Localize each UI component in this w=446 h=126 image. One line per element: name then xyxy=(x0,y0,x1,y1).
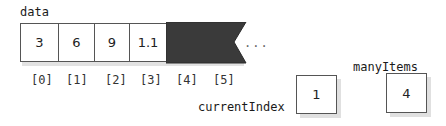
continuation-ellipsis: ... xyxy=(244,36,269,50)
array-cell-1: 6 xyxy=(58,23,95,62)
current-index-label: currentIndex xyxy=(198,100,285,114)
array-cell-2: 9 xyxy=(94,23,130,62)
array-name-label: data xyxy=(20,5,49,19)
index-label-5: [5] xyxy=(213,73,235,87)
index-label-2: [2] xyxy=(105,73,127,87)
index-label-4: [4] xyxy=(176,73,198,87)
index-label-3: [3] xyxy=(140,73,162,87)
many-items-label: manyItems xyxy=(353,60,418,74)
many-items-box: 4 xyxy=(386,73,427,113)
index-label-1: [1] xyxy=(66,73,88,87)
array-cell-0: 3 xyxy=(20,23,59,62)
array-cell-3: 1.1 xyxy=(129,23,167,62)
current-index-box: 1 xyxy=(296,75,337,114)
index-label-0: [0] xyxy=(31,73,53,87)
unused-capacity-region xyxy=(166,22,248,64)
